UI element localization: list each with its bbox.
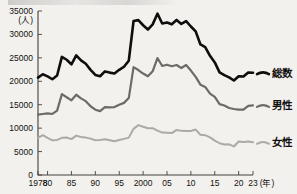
x-axis-tick-label: 2000 <box>134 178 153 188</box>
legend-swatch-3 <box>257 142 269 144</box>
y-axis-unit-label: (人) <box>18 15 33 25</box>
series-line-2 <box>38 58 253 115</box>
x-axis-tick-label: 85 <box>67 178 77 188</box>
legend-label-1: 総数 <box>272 67 293 79</box>
x-axis-tick-label: 80 <box>43 178 53 188</box>
legend-swatch-2 <box>257 105 269 107</box>
legend-label-2: 男性 <box>272 99 293 111</box>
x-axis-unit-label: (年) <box>260 178 275 188</box>
chart-axes <box>38 11 253 175</box>
y-axis-tick-label: 20000 <box>9 76 33 86</box>
y-axis-tick-label: 30000 <box>9 29 33 39</box>
x-axis-tick-label: 95 <box>114 178 124 188</box>
legend-swatch-1 <box>257 72 269 74</box>
legend-label-3: 女性 <box>272 136 293 148</box>
chart-container: 05000100001500020000250003000035000(人)19… <box>0 0 297 194</box>
x-axis-tick-label: 23 <box>248 178 258 188</box>
y-axis-tick-label: 10000 <box>9 123 33 133</box>
y-axis-tick-label: 5000 <box>14 147 33 157</box>
x-axis-tick-label: 15 <box>210 178 220 188</box>
x-axis-tick-label: 90 <box>91 178 101 188</box>
x-axis-tick-label: 20 <box>234 178 244 188</box>
x-axis-tick-label: 05 <box>162 178 172 188</box>
line-chart: 05000100001500020000250003000035000(人)19… <box>0 0 297 194</box>
y-axis-tick-label: 15000 <box>9 100 33 110</box>
series-line-3 <box>38 125 253 146</box>
y-axis-tick-label: 25000 <box>9 53 33 63</box>
x-axis-tick-label: 10 <box>186 178 196 188</box>
series-line-1 <box>38 14 253 81</box>
